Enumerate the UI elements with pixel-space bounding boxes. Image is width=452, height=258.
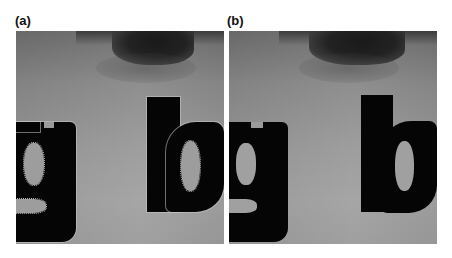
panel-b-image [229,31,437,244]
panel-a-label: (a) [15,14,31,27]
under-eye-shadow [299,53,399,83]
panel-a-image [16,31,224,244]
panel-b-label: (b) [227,14,244,27]
under-eye-shadow [96,53,196,83]
